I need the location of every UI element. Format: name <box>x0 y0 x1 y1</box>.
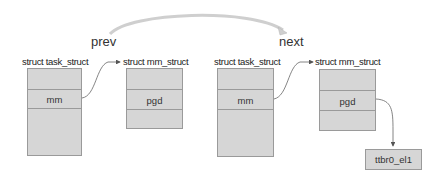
diagram-canvas: prev next struct task_struct mm struct m… <box>0 0 444 177</box>
struct-field <box>218 69 273 89</box>
mm-pointer-arrow-left <box>82 62 120 98</box>
struct-title: struct task_struct <box>214 56 280 67</box>
ttbr0-register-box: ttbr0_el1 <box>365 149 422 170</box>
task-struct-box: mm <box>27 68 82 156</box>
mm-pointer-arrow-right <box>274 62 313 99</box>
struct-field-pgd: pgd <box>127 89 182 110</box>
prev-label: prev <box>91 34 116 49</box>
mm-struct-box: pgd <box>319 69 376 131</box>
struct-field <box>28 69 81 89</box>
pgd-pointer-arrow <box>376 99 393 146</box>
struct-field <box>28 108 81 156</box>
struct-field <box>127 69 182 89</box>
struct-field-mm: mm <box>218 89 273 110</box>
struct-field-mm: mm <box>28 89 81 109</box>
mm-struct-box: pgd <box>126 68 183 129</box>
struct-field-pgd: pgd <box>320 90 375 111</box>
struct-field <box>320 110 375 131</box>
prev-next-arc <box>110 15 283 34</box>
struct-field <box>320 70 375 90</box>
struct-field <box>127 109 182 129</box>
struct-title: struct task_struct <box>22 56 88 67</box>
next-label: next <box>279 34 304 49</box>
register-label: ttbr0_el1 <box>366 150 421 169</box>
struct-title: struct mm_struct <box>123 56 188 67</box>
task-struct-box: mm <box>217 68 274 157</box>
struct-field <box>218 109 273 157</box>
struct-title: struct mm_struct <box>315 56 380 67</box>
